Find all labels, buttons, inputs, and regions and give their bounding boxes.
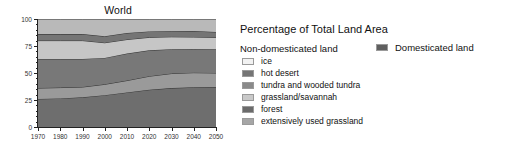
legend-item-label: hot desert <box>261 69 299 78</box>
legend-swatch-icon <box>242 70 254 77</box>
x-axis-label: 2000 <box>98 133 112 140</box>
x-axis-label: 2020 <box>142 133 156 140</box>
area-series-group <box>38 19 216 127</box>
legend-item: grassland/savannah <box>242 93 363 102</box>
legend-item-label: grassland/savannah <box>261 93 337 102</box>
legend-item: tundra and wooded tundra <box>242 81 363 90</box>
x-axis-label: 1980 <box>53 133 67 140</box>
x-axis-label: 2010 <box>120 133 134 140</box>
y-axis-label: 0 <box>28 124 32 131</box>
legend-item-label: tundra and wooded tundra <box>261 81 360 90</box>
legend-item: hot desert <box>242 69 363 78</box>
x-axis-label: 2030 <box>164 133 178 140</box>
x-axis-label: 2040 <box>187 133 201 140</box>
y-axis-label: 25 <box>25 97 32 104</box>
y-axis-label: 50 <box>25 70 32 77</box>
x-axis-label: 1970 <box>31 133 45 140</box>
chart-panel: World 0255075100 19701980199020002010202… <box>0 0 236 151</box>
stacked-area-plot <box>38 19 216 127</box>
legend-item: ice <box>242 57 363 66</box>
legend-swatch-icon <box>242 106 254 113</box>
x-axis-label: 2050 <box>209 133 223 140</box>
legend-panel: Percentage of Total Land Area Non-domest… <box>240 0 516 151</box>
domesticated-legend-entry: Domesticated land <box>376 42 474 53</box>
legend-item-label: ice <box>261 57 272 66</box>
legend-swatch-icon <box>242 58 254 65</box>
y-axis-label: 75 <box>25 43 32 50</box>
legend-swatch-icon <box>242 118 254 125</box>
legend-swatch-icon <box>242 82 254 89</box>
chart-title: World <box>0 4 236 16</box>
legend-swatch-icon <box>242 94 254 101</box>
plot-wrap: 0255075100 19701980199020002010202020302… <box>38 19 216 127</box>
legend-item-label: extensively used grassland <box>261 117 363 126</box>
y-axis-line <box>37 19 38 128</box>
legend-heading: Percentage of Total Land Area <box>240 23 388 35</box>
figure-root: World 0255075100 19701980199020002010202… <box>0 0 516 151</box>
non-domesticated-label: Non-domesticated land <box>240 43 338 54</box>
domesticated-label: Domesticated land <box>395 42 474 53</box>
x-axis-line <box>37 127 217 128</box>
legend-item: extensively used grassland <box>242 117 363 126</box>
domesticated-swatch-icon <box>376 44 388 51</box>
legend-item: forest <box>242 105 363 114</box>
legend-item-label: forest <box>261 105 282 114</box>
legend-item-list: icehot deserttundra and wooded tundragra… <box>242 57 363 126</box>
x-axis-label: 1990 <box>75 133 89 140</box>
y-axis-label: 100 <box>21 16 32 23</box>
